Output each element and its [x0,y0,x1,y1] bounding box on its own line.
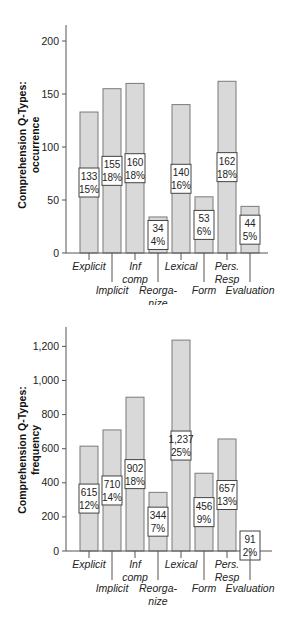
value-label: 902 [127,463,144,474]
y-axis-label: Comprehension Q-Types:occurrence [16,81,41,209]
y-axis-label: Comprehension Q-Types:frequency [16,386,41,514]
x-category-label: Pers.Resp [215,260,240,285]
percent-label: 9% [197,514,212,525]
value-box: 16218% [217,153,237,182]
x-category-label: Explicit [72,558,106,570]
y-tick-label: 100 [41,141,59,153]
percent-label: 4% [151,236,166,247]
value-label: 615 [81,487,98,498]
x-category-label: Form [192,284,217,296]
y-tick-label: 1,000 [33,374,59,386]
value-label: 155 [104,159,121,170]
y-tick-label: 800 [41,408,59,420]
x-category-label: Evaluation [225,582,274,594]
y-tick-label: 200 [41,510,59,522]
percent-label: 6% [197,226,212,237]
y-tick-label: 0 [53,247,59,259]
x-category-label: Lexical [165,260,198,272]
value-box: 71014% [102,476,122,505]
value-label: 91 [244,534,256,545]
percent-label: 18% [217,169,237,180]
x-category-label: Implicit [96,284,130,296]
x-category-label: Evaluation [225,284,274,296]
value-box: 344% [148,220,168,249]
value-label: 133 [81,171,98,182]
value-box: 90218% [125,460,145,489]
y-tick-label: 1,200 [33,340,59,352]
percent-label: 16% [171,180,191,191]
value-label: 1,237 [168,434,193,445]
percent-label: 18% [102,172,122,183]
value-box: 536% [194,210,214,239]
percent-label: 25% [171,447,191,458]
value-box: 16018% [125,154,145,183]
value-label: 160 [127,157,144,168]
percent-label: 7% [151,523,166,534]
value-label: 344 [150,510,167,521]
y-tick-label: 0 [53,545,59,557]
value-box: 1,23725% [168,431,193,460]
value-box: 61512% [79,484,99,513]
value-box: 15518% [102,156,122,185]
value-label: 53 [198,213,210,224]
x-category-label: Reorga-nize [139,284,177,305]
value-box: 4569% [194,498,214,527]
x-category-label: Lexical [165,558,198,570]
value-label: 140 [173,167,190,178]
percent-label: 5% [243,231,258,242]
frequency-chart: Comprehension Q-Types:frequency020040060… [0,305,287,627]
y-tick-label: 400 [41,476,59,488]
percent-label: 15% [79,184,99,195]
value-label: 456 [196,501,213,512]
value-box: 13315% [79,168,99,197]
x-category-label: Form [192,582,217,594]
y-tick-label: 150 [41,88,59,100]
value-label: 34 [152,223,164,234]
percent-label: 18% [125,170,145,181]
value-box: 65713% [217,480,237,509]
x-category-label: Reorga-nize [139,582,177,607]
x-category-label: Implicit [96,582,130,594]
percent-label: 13% [217,496,237,507]
value-box: 3447% [148,507,168,536]
y-tick-label: 600 [41,442,59,454]
value-label: 657 [219,483,236,494]
percent-label: 18% [125,476,145,487]
x-category-label: Infcomp [122,558,148,583]
percent-label: 12% [79,500,99,511]
value-label: 162 [219,156,236,167]
x-category-label: Pers.Resp [215,558,240,583]
value-box: 14016% [171,164,191,193]
y-tick-label: 200 [41,35,59,47]
x-category-label: Infcomp [122,260,148,285]
occurrence-chart: Comprehension Q-Types:occurrence05010015… [0,0,287,305]
percent-label: 14% [102,492,122,503]
value-box: 445% [240,215,260,244]
y-tick-label: 50 [47,194,59,206]
value-label: 710 [104,479,121,490]
value-label: 44 [244,218,256,229]
x-category-label: Explicit [72,260,106,272]
